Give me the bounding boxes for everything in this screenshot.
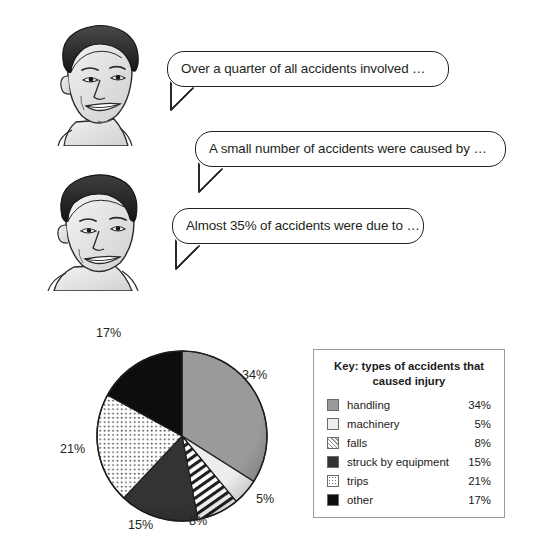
legend-label: handling bbox=[347, 399, 468, 411]
pie-label-other: 17% bbox=[96, 326, 121, 340]
legend-label: machinery bbox=[347, 418, 475, 430]
speech-bubble-1: Over a quarter of all accidents involved… bbox=[167, 51, 449, 87]
other-swatch bbox=[327, 494, 339, 506]
legend-row: trips21% bbox=[327, 471, 491, 490]
trips-swatch bbox=[327, 475, 339, 487]
legend-value: 5% bbox=[475, 418, 491, 430]
pie-label-falls: 8% bbox=[189, 514, 207, 528]
pie-label-handling: 34% bbox=[242, 368, 267, 382]
legend-row: struck by equipment15% bbox=[327, 452, 491, 471]
legend-row: other17% bbox=[327, 490, 491, 509]
falls-swatch bbox=[327, 437, 339, 449]
speech-bubble-3: Almost 35% of accidents were due to … bbox=[172, 208, 424, 244]
pie-label-machinery: 5% bbox=[256, 492, 274, 506]
legend-label: other bbox=[347, 494, 468, 506]
struck-swatch bbox=[327, 456, 339, 468]
speech-bubble-3-text: Almost 35% of accidents were due to … bbox=[186, 219, 420, 234]
legend-row: machinery5% bbox=[327, 414, 491, 433]
legend-value: 17% bbox=[468, 494, 491, 506]
legend-row: falls8% bbox=[327, 433, 491, 452]
legend-rows: handling34%machinery5%falls8%struck by e… bbox=[327, 395, 491, 509]
pie-label-trips: 21% bbox=[60, 442, 85, 456]
legend-value: 8% bbox=[475, 437, 491, 449]
legend-label: falls bbox=[347, 437, 475, 449]
illustration-face-smiling-man-top bbox=[28, 18, 160, 146]
legend-label: struck by equipment bbox=[347, 456, 468, 468]
handling-swatch bbox=[327, 399, 339, 411]
speech-bubble-1-text: Over a quarter of all accidents involved… bbox=[181, 62, 425, 77]
legend-value: 34% bbox=[468, 399, 491, 411]
chart-legend: Key: types of accidents that caused inju… bbox=[313, 349, 505, 518]
pie-chart: 34% 5% 8% 15% 21% 17% bbox=[60, 326, 310, 554]
machinery-swatch bbox=[327, 418, 339, 430]
legend-label: trips bbox=[347, 475, 468, 487]
legend-value: 15% bbox=[468, 456, 491, 468]
speech-bubble-2: A small number of accidents were caused … bbox=[195, 131, 506, 167]
pie-label-struck: 15% bbox=[128, 518, 153, 532]
legend-row: handling34% bbox=[327, 395, 491, 414]
legend-value: 21% bbox=[468, 475, 491, 487]
legend-title: Key: types of accidents that caused inju… bbox=[327, 359, 491, 388]
illustration-face-smiling-man-bottom bbox=[40, 163, 162, 291]
speech-bubble-2-text: A small number of accidents were caused … bbox=[209, 142, 487, 157]
